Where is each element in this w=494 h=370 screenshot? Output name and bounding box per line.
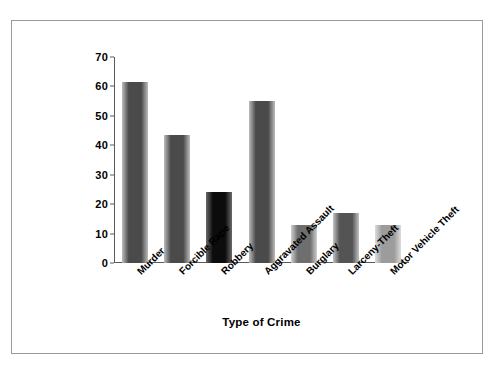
y-tick-label: 30 xyxy=(95,169,108,181)
y-tick-label: 20 xyxy=(95,198,108,210)
y-tick-mark xyxy=(110,204,114,205)
y-tick-mark xyxy=(110,86,114,87)
x-axis-title: Type of Crime xyxy=(114,316,409,328)
y-tick-label: 40 xyxy=(95,139,108,151)
y-tick-mark xyxy=(110,57,114,58)
y-tick-mark xyxy=(110,145,114,146)
y-tick-label: 10 xyxy=(95,228,108,240)
y-tick-mark xyxy=(110,174,114,175)
y-tick-mark xyxy=(110,115,114,116)
figure-frame: Percentage Cleared 010203040506070 Murde… xyxy=(11,20,483,354)
y-tick-label: 0 xyxy=(102,257,108,269)
bar xyxy=(122,82,148,263)
bar xyxy=(164,135,190,263)
y-tick-mark xyxy=(110,233,114,234)
y-tick-label: 60 xyxy=(95,80,108,92)
y-tick-mark xyxy=(110,263,114,264)
bar xyxy=(249,101,275,263)
bar xyxy=(333,213,359,263)
y-tick-label: 50 xyxy=(95,110,108,122)
plot-area: 010203040506070 MurderForcible RapeRobbe… xyxy=(114,57,409,263)
y-tick-label: 70 xyxy=(95,51,108,63)
y-axis-line xyxy=(114,57,115,263)
